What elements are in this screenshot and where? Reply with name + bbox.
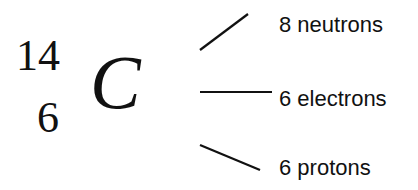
electrons-label: 6 electrons [279,86,387,112]
neutrons-label: 8 neutrons [279,12,383,38]
neutrons-connector-line [200,14,248,50]
protons-connector-line [200,145,260,170]
protons-label: 6 protons [279,155,371,181]
